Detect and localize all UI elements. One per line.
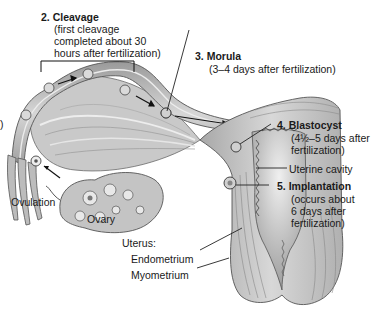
uterus-label: Uterus: (122, 237, 156, 249)
stage-title: Morula (207, 50, 241, 62)
stage-cleavage-label: 2. Cleavage (41, 11, 99, 23)
stage-implantation-label: 5. Implantation (277, 180, 351, 192)
stage-title: Implantation (289, 180, 351, 192)
myometrium-label: Myometrium (131, 269, 189, 281)
left-edge-fragment: ) (0, 118, 4, 130)
stage-implantation-detail: (occurs about 6 days after fertilization… (291, 193, 355, 229)
stage-title: Blastocyst (289, 119, 342, 131)
stage-morula-detail: (3–4 days after fertilization) (209, 63, 336, 75)
endometrium-label: Endometrium (131, 253, 193, 265)
stage-blastocyst-detail: (4½–5 days after fertilization) (291, 132, 370, 156)
stage-blastocyst-label: 4. Blastocyst (277, 119, 342, 131)
uterine-cavity-label: Uterine cavity (289, 163, 353, 175)
ovary-label: Ovary (87, 213, 115, 225)
stage-title: Cleavage (53, 11, 99, 23)
ovulation-label: Ovulation (11, 196, 55, 208)
stage-cleavage-detail: (first cleavage completed about 30 hours… (54, 23, 161, 59)
stage-morula-label: 3. Morula (195, 50, 241, 62)
